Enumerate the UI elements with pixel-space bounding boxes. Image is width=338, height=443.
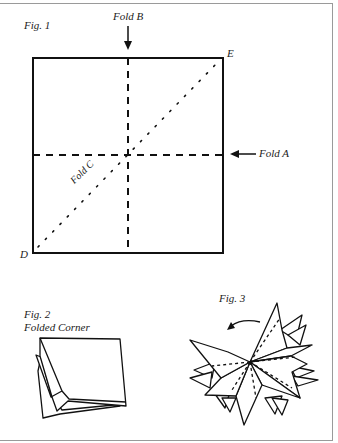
fold-b-label: Fold B <box>113 10 143 22</box>
fig3-title: Fig. 3 <box>219 292 245 304</box>
fig2-subtitle: Folded Corner <box>24 321 90 333</box>
fold-a-arrow-icon <box>230 150 256 158</box>
rotation-arrow-icon <box>227 321 260 330</box>
corner-e-label: E <box>227 47 234 59</box>
fig2-title: Fig. 2 <box>24 308 50 320</box>
fold-a-label: Fold A <box>259 147 289 159</box>
corner-d-label: D <box>20 248 28 260</box>
fold-b-arrow-icon <box>124 26 132 50</box>
fig1-title: Fig. 1 <box>24 19 50 31</box>
fold-diagram-drawing <box>0 0 338 443</box>
fig1-square <box>33 58 223 253</box>
fig2-folded-corner <box>36 338 126 418</box>
